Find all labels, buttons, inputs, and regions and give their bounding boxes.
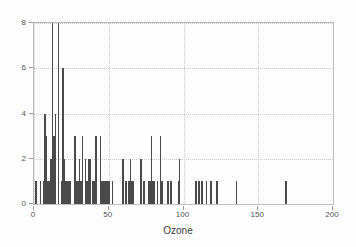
histogram-bar: [161, 181, 162, 204]
histogram-bar: [35, 181, 36, 204]
histogram-bar: [58, 23, 59, 204]
x-axis-tick-label: 150: [251, 210, 264, 219]
y-axis-tick-label: 4: [22, 108, 26, 117]
y-axis-tick: [29, 203, 33, 204]
histogram-bars: [34, 23, 333, 204]
histogram-bar: [112, 181, 113, 204]
histogram-bar: [140, 159, 141, 204]
histogram-bar: [167, 181, 168, 204]
histogram-bar: [154, 181, 155, 204]
histogram-bar: [157, 181, 158, 204]
histogram-bar: [216, 181, 217, 204]
histogram-bar: [179, 159, 180, 204]
y-axis-tick: [29, 67, 33, 68]
histogram-bar: [122, 159, 123, 204]
x-axis-tick-label: 50: [103, 210, 112, 219]
histogram-bar: [236, 181, 237, 204]
histogram-bar: [195, 181, 196, 204]
histogram-bar: [285, 181, 286, 204]
histogram-bar: [210, 181, 211, 204]
gridline-vertical: [333, 23, 334, 204]
histogram-bar: [40, 181, 41, 204]
plot-area: [33, 22, 334, 205]
x-axis-tick-label: 200: [325, 210, 338, 219]
y-axis-tick-label: 8: [22, 18, 26, 27]
y-axis-tick-label: 2: [22, 153, 26, 162]
histogram-bar: [206, 181, 207, 204]
histogram-bar: [70, 181, 71, 204]
x-axis-tick-label: 0: [31, 210, 35, 219]
y-axis-tick: [29, 158, 33, 159]
histogram-bar: [143, 181, 144, 204]
histogram-bar: [133, 181, 134, 204]
y-axis-tick: [29, 113, 33, 114]
histogram-bar: [109, 181, 110, 204]
histogram-bar: [201, 181, 202, 204]
y-axis-tick: [29, 22, 33, 23]
histogram-bar: [198, 181, 199, 204]
histogram-screenshot: 050100150200 02468 Ozone: [0, 0, 356, 247]
x-axis-title: Ozone: [0, 225, 356, 236]
gridline-horizontal: [34, 204, 333, 205]
histogram-bar: [89, 159, 90, 204]
y-axis-tick-label: 0: [22, 199, 26, 208]
y-axis-tick-label: 6: [22, 63, 26, 72]
histogram-bar: [125, 181, 126, 204]
x-axis-tick-label: 100: [176, 210, 189, 219]
histogram-bar: [55, 114, 56, 205]
histogram-bar: [95, 136, 96, 204]
histogram-bar: [82, 136, 83, 204]
histogram-bar: [170, 181, 171, 204]
